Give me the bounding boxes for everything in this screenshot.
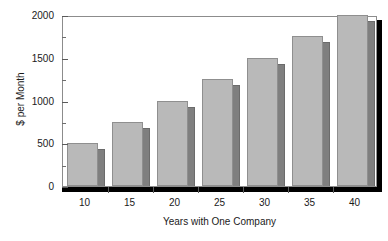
bar-group bbox=[112, 122, 150, 186]
y-axis-major-tick bbox=[62, 144, 68, 145]
y-axis-tick-label: 1500 bbox=[4, 54, 54, 64]
bar bbox=[202, 79, 233, 186]
y-axis-minor-tick bbox=[62, 37, 66, 38]
y-axis-tick-label: 0 bbox=[4, 182, 54, 192]
bar bbox=[67, 143, 98, 186]
bar-side-face bbox=[368, 21, 375, 186]
x-axis-tick-labels: 10152025303540 bbox=[62, 197, 377, 211]
x-axis-tick bbox=[243, 187, 244, 193]
x-axis-tick bbox=[333, 187, 334, 193]
bar-group bbox=[157, 101, 195, 187]
bar bbox=[112, 122, 143, 186]
x-axis-tick bbox=[198, 187, 199, 193]
bar-side-face bbox=[278, 64, 285, 186]
x-axis-tick-label: 30 bbox=[245, 197, 285, 209]
bar-side-face bbox=[233, 85, 240, 186]
y-axis-tick-label: 1000 bbox=[4, 97, 54, 107]
bar-side-face bbox=[188, 107, 195, 187]
bar bbox=[337, 15, 368, 186]
bar bbox=[292, 36, 323, 186]
x-axis-tick bbox=[288, 187, 289, 193]
x-axis-tick-label: 15 bbox=[110, 197, 150, 209]
bar-group bbox=[247, 58, 285, 186]
bar bbox=[157, 101, 188, 187]
x-axis-tick-label: 10 bbox=[65, 197, 105, 209]
bar-side-face bbox=[323, 42, 330, 186]
y-axis-minor-tick bbox=[62, 80, 66, 81]
plot-area bbox=[62, 16, 377, 187]
x-axis-tick-label: 40 bbox=[335, 197, 375, 209]
y-axis-major-tick bbox=[62, 16, 68, 17]
bar-chart-figure: $ per Month 0500100015002000 10152025303… bbox=[0, 0, 388, 241]
y-axis-major-tick bbox=[62, 102, 68, 103]
bar-group bbox=[292, 36, 330, 186]
y-axis-minor-tick bbox=[62, 123, 66, 124]
bar-group bbox=[202, 79, 240, 186]
x-axis-tick bbox=[153, 187, 154, 193]
x-axis-label: Years with One Company bbox=[62, 216, 377, 228]
x-axis-ticks bbox=[62, 187, 377, 195]
x-axis-tick bbox=[108, 187, 109, 193]
y-axis-major-tick bbox=[62, 59, 68, 60]
bars-container bbox=[63, 17, 376, 186]
bar-side-face bbox=[143, 128, 150, 186]
right-shadow-band bbox=[377, 20, 382, 192]
y-axis-tick-labels: 0500100015002000 bbox=[0, 0, 62, 241]
bar-side-face bbox=[98, 149, 105, 186]
y-axis-tick-label: 2000 bbox=[4, 11, 54, 21]
x-axis-tick-label: 35 bbox=[290, 197, 330, 209]
y-axis-minor-tick bbox=[62, 166, 66, 167]
x-axis-tick-label: 25 bbox=[200, 197, 240, 209]
bar-group bbox=[337, 15, 375, 186]
x-axis-tick-label: 20 bbox=[155, 197, 195, 209]
y-axis-major-tick bbox=[62, 187, 68, 188]
y-axis-tick-label: 500 bbox=[4, 139, 54, 149]
bar bbox=[247, 58, 278, 186]
bar-group bbox=[67, 143, 105, 186]
